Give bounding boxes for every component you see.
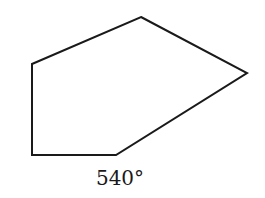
pentagon-shape: [32, 17, 247, 155]
angle-sum-label: 540°: [0, 166, 240, 190]
